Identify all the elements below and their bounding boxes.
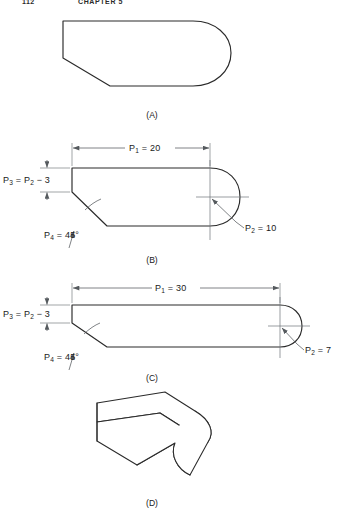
profile-c-outline [72, 305, 302, 347]
dim-b-length-label: P1 = 20 [129, 143, 160, 154]
dim-b-height-label: P3 = P2 − 3 [3, 175, 50, 186]
figure-d-caption: (D) [146, 498, 158, 508]
figure-b-group: P1 = 20 P3 = P2 − 3 P4 = 45° [3, 143, 276, 265]
dim-b-angle-label: P4 = 45° [44, 230, 79, 241]
dim-c-angle-label: P4 = 45° [44, 352, 79, 363]
figure-c-caption: (C) [146, 373, 158, 383]
figure-d-group: (D) [97, 392, 211, 508]
dim-b-radius-label: P2 = 10 [245, 223, 276, 234]
technical-figure: (A) P1 = 20 P3 = P2 − 3 [0, 0, 343, 522]
figure-a-group: (A) [63, 21, 231, 120]
figure-c-group: P1 = 30 P3 = P2 − 3 P4 = 45° P2 [3, 283, 331, 383]
figure-a-caption: (A) [146, 110, 158, 120]
dim-c-length-label: P1 = 30 [155, 283, 186, 294]
profile-a-outline [63, 21, 231, 86]
radius-leader-b-tail [236, 222, 244, 228]
figure-page: 112 CHAPTER 5 (A) P1 [0, 0, 343, 522]
dim-c-radius-label: P2 = 7 [305, 345, 331, 356]
dim-c-height-label: P3 = P2 − 3 [3, 309, 50, 320]
radius-leader-c-tail [297, 344, 304, 350]
figure-b-caption: (B) [146, 255, 158, 265]
